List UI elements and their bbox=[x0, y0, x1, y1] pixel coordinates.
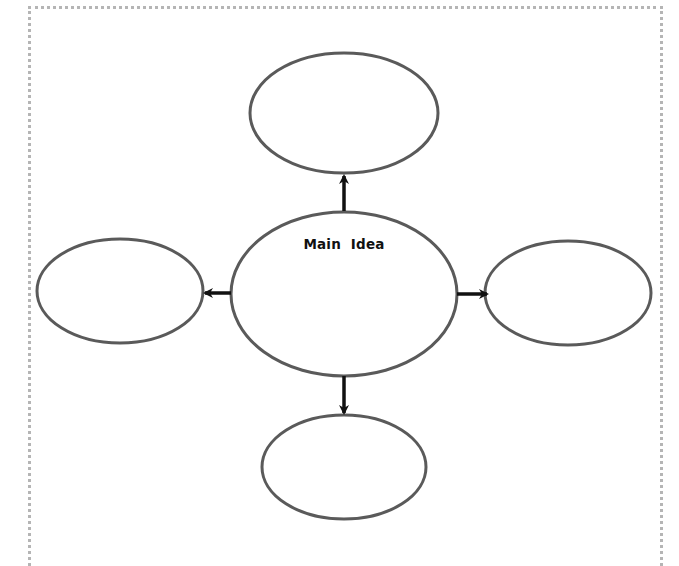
top-branch-ellipse[interactable] bbox=[250, 53, 438, 173]
right-branch-ellipse[interactable] bbox=[485, 241, 651, 345]
main-idea-label: Main Idea bbox=[244, 236, 444, 252]
left-branch-ellipse[interactable] bbox=[37, 239, 203, 343]
bottom-branch-ellipse[interactable] bbox=[262, 415, 426, 519]
